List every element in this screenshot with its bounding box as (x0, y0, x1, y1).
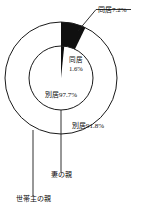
label-inner-same-line1: 同居 (69, 56, 83, 64)
nested-donut-chart: 同居7.2% 同居 1.6% 別居97.7% 別居91.8% 妻の親 世帯主の親 (0, 0, 144, 208)
label-inner-same-line2: 1.6% (69, 65, 83, 72)
label-category-inner: 妻の親 (51, 170, 72, 179)
label-outer-apart: 別居91.8% (72, 121, 104, 130)
label-inner-apart: 別居97.7% (45, 90, 77, 99)
label-outer-same: 同居7.2% (98, 6, 127, 14)
chart-svg: 同居7.2% 同居 1.6% 別居97.7% 別居91.8% 妻の親 世帯主の親 (0, 0, 144, 208)
label-category-outer: 世帯主の親 (16, 194, 51, 203)
